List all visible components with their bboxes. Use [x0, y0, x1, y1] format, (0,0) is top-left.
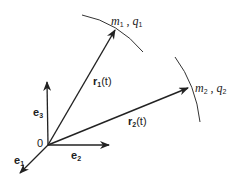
p2-separator: , — [208, 81, 217, 95]
e3-subscript: 3 — [39, 112, 43, 119]
e3-axis-arrow — [47, 82, 48, 145]
origin-label: 0 — [37, 138, 43, 149]
q1-subscript: 1 — [139, 21, 143, 28]
r2-argument: (t) — [136, 115, 146, 127]
e1-axis-arrow — [20, 145, 48, 173]
particle-1-label: m1 , q1 — [111, 15, 142, 28]
q2-subscript: 2 — [223, 88, 227, 95]
two-particle-position-diagram: 0 e3 e2 e1 r1(t) r2(t) m1 , q1 m2 , q2 — [0, 0, 242, 186]
p1-separator: , — [124, 14, 133, 28]
particle-2-label: m2 , q2 — [195, 82, 226, 95]
r1-argument: (t) — [101, 75, 111, 87]
e1-subscript: 1 — [20, 160, 24, 167]
r2-label: r2(t) — [128, 116, 147, 128]
r1-label: r1(t) — [93, 76, 112, 88]
r2-position-arrow — [48, 88, 188, 145]
e2-label: e2 — [71, 150, 81, 162]
e3-label: e3 — [33, 107, 43, 119]
m2-base: m — [195, 81, 204, 95]
e1-label: e1 — [14, 155, 24, 167]
m1-base: m — [111, 14, 120, 28]
e2-subscript: 2 — [77, 155, 81, 162]
